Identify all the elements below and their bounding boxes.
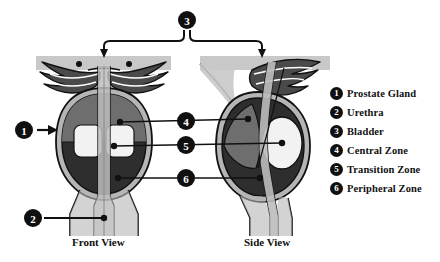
legend-item-urethra[interactable]: 2 Urethra [330,103,440,122]
callout-badge-3[interactable]: 3 [178,11,196,29]
legend-badge-4: 4 [330,144,343,157]
legend-badge-5: 5 [330,163,343,176]
callout-badge-5[interactable]: 5 [177,136,195,154]
dot-urethra-front [101,215,107,221]
dot-peripheral-front [115,175,121,181]
callout-badge-2-number: 2 [30,213,36,225]
front-view-figure [40,61,168,236]
dot-central-side [245,116,251,122]
dot-peripheral-side [257,175,263,181]
side-view-label: Side View [244,236,290,248]
legend-label-1: Prostate Gland [347,88,416,99]
callout-badge-5-number: 5 [183,140,189,152]
callout-1-arrow [37,125,58,135]
legend-item-peripheral-zone[interactable]: 6 Peripheral Zone [330,179,440,198]
vas-deferens-dot-left [76,61,82,67]
legend-badge-2: 2 [330,106,343,119]
callout-badge-6[interactable]: 6 [177,169,195,187]
legend-item-prostate-gland[interactable]: 1 Prostate Gland [330,84,440,103]
legend-label-6: Peripheral Zone [347,183,422,194]
callout-3-bracket [104,30,262,52]
legend-item-bladder[interactable]: 3 Bladder [330,122,440,141]
dot-transition-side [279,140,285,146]
callout-badge-1-number: 1 [21,125,27,137]
front-view-label: Front View [72,236,125,248]
callout-badge-6-number: 6 [183,173,189,185]
callout-badge-4[interactable]: 4 [177,112,195,130]
legend-badge-1: 1 [330,87,343,100]
legend-label-3: Bladder [347,126,384,137]
vas-deferens-dot-right [126,61,132,67]
callout-badge-2[interactable]: 2 [24,209,42,227]
legend-badge-6: 6 [330,182,343,195]
callout-badge-1[interactable]: 1 [15,121,33,139]
legend-badge-3: 3 [330,125,343,138]
legend-item-transition-zone[interactable]: 5 Transition Zone [330,160,440,179]
legend-item-central-zone[interactable]: 4 Central Zone [330,141,440,160]
legend-label-2: Urethra [347,107,384,118]
legend-label-4: Central Zone [347,145,408,156]
dot-central-front [117,119,123,125]
dot-transition-front [111,143,117,149]
callout-badge-4-number: 4 [183,116,189,128]
callout-badge-3-number: 3 [184,15,190,27]
legend-label-5: Transition Zone [347,164,420,175]
legend: 1 Prostate Gland 2 Urethra 3 Bladder 4 C… [330,84,440,198]
side-view-figure [200,59,320,236]
